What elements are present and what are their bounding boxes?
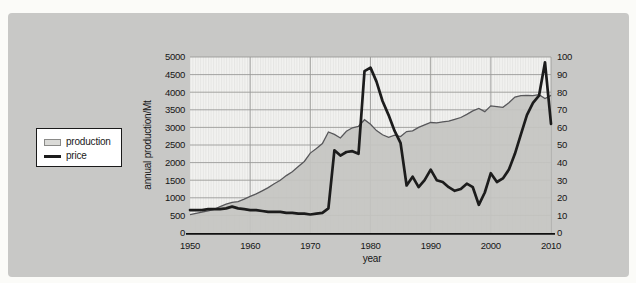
left-axis-tick: 1500 (165, 175, 185, 186)
right-axis-tick: 80 (557, 87, 567, 98)
left-axis-tick: 2500 (165, 139, 185, 150)
left-axis-tick: 2000 (165, 157, 185, 168)
price-line-swatch-icon (44, 155, 61, 158)
x-axis-tick: 1950 (180, 240, 200, 251)
x-axis-title: year (363, 253, 383, 264)
left-axis-title: annual production/Mt (142, 100, 153, 190)
x-axis-tick: 2000 (481, 240, 501, 251)
legend-label-price: price (66, 150, 87, 162)
right-axis-tick: 20 (557, 192, 567, 203)
legend-label-production: production (66, 136, 111, 148)
right-axis-tick: 30 (557, 175, 567, 186)
left-axis-tick: 0 (180, 227, 185, 238)
right-axis-tick: 70 (557, 104, 567, 115)
right-axis-tick: 10 (557, 210, 567, 221)
right-axis-tick: 90 (557, 69, 567, 80)
legend-item-price: price (44, 149, 121, 163)
right-axis-tick: 100 (557, 51, 572, 62)
x-axis-tick: 1960 (240, 240, 260, 251)
x-axis-tick: 1980 (361, 240, 381, 251)
legend: production price (36, 128, 122, 167)
production-area-swatch-icon (44, 139, 61, 146)
right-axis-tick: 40 (557, 157, 567, 168)
right-axis-tick: 50 (557, 139, 567, 150)
x-axis-tick: 2010 (541, 240, 561, 251)
left-axis-tick: 4000 (165, 87, 185, 98)
right-axis-tick: 60 (557, 122, 567, 133)
left-axis-tick: 3000 (165, 122, 185, 133)
left-axis-tick: 1000 (165, 192, 185, 203)
x-axis-tick: 1990 (421, 240, 441, 251)
left-axis-tick: 4500 (165, 69, 185, 80)
figure: 0500100015002000250030003500400045005000… (0, 0, 636, 283)
x-axis-tick: 1970 (300, 240, 320, 251)
right-axis-tick: 0 (557, 227, 562, 238)
left-axis-tick: 5000 (165, 51, 185, 62)
legend-item-production: production (44, 135, 121, 149)
left-axis-tick: 500 (170, 210, 185, 221)
left-axis-tick: 3500 (165, 104, 185, 115)
